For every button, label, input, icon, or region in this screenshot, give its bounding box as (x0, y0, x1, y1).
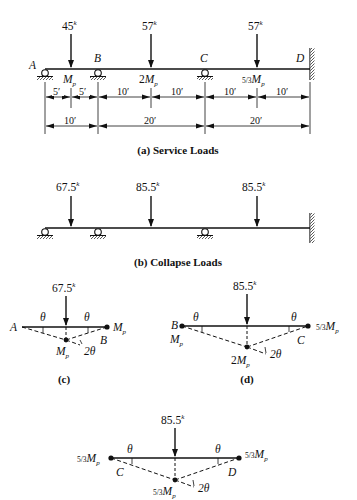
caption-c: (c) (58, 373, 71, 386)
plastic-hinge-icon (236, 455, 241, 460)
load-arrow: 45k (62, 19, 78, 67)
panel-a-service-loads: 45k 57k 57k A B C D (28, 19, 315, 157)
svg-text:67.5k: 67.5k (52, 281, 76, 294)
caption-a: (a) Service Loads (137, 144, 219, 157)
svg-text:85.5k: 85.5k (233, 279, 257, 292)
dimension-label: 20′ (144, 115, 156, 126)
load-arrow: 57k (142, 19, 158, 67)
svg-text:57k: 57k (248, 19, 264, 32)
joint-label-a: A (28, 59, 37, 71)
joint-label-d: D (227, 466, 237, 478)
panel-e-mechanism: 85.5k C D θ θ 5/3Mp 5/3Mp 5/3Mp 2θ (77, 413, 268, 500)
plastic-hinge-icon (104, 324, 109, 329)
load-arrow: 57k (248, 19, 264, 67)
fixed-support-icon (310, 48, 315, 80)
svg-text:57k: 57k (142, 19, 158, 32)
svg-text:85.5k: 85.5k (136, 180, 160, 193)
moment-label: 5/3Mp (77, 452, 100, 467)
panel-b-collapse-loads: 67.5k 85.5k 85.5k (b) Coll (37, 180, 315, 269)
load-arrow: 85.5k (136, 180, 160, 226)
svg-text:45k: 45k (62, 19, 78, 32)
panel-c-mechanism: 67.5k A B θ θ Mp Mp 2θ (c) (9, 281, 127, 386)
panel-d-mechanism: 85.5k B C θ θ Mp 2Mp 5/3Mp 2θ (d) (169, 279, 339, 386)
joint-label-c: C (297, 334, 305, 346)
two-theta-label: 2θ (198, 482, 210, 494)
dimension-label: 10′ (64, 115, 76, 126)
roller-support-icon (197, 70, 213, 80)
svg-text:85.5k: 85.5k (242, 180, 266, 193)
theta-label: θ (193, 311, 199, 323)
joint-label-c: C (200, 52, 208, 64)
plastic-hinge-icon (173, 478, 178, 483)
dimension-label: 20′ (250, 115, 262, 126)
plastic-hinge-icon (64, 338, 69, 343)
dimension-label: 5′ (53, 86, 60, 97)
dimension-label: 10′ (171, 86, 183, 97)
moment-label: Mp (169, 333, 184, 348)
moment-label: 5/3Mp (316, 320, 339, 335)
dimension-label: 10′ (276, 86, 288, 97)
theta-label: θ (291, 311, 297, 323)
caption-d: (d) (240, 373, 254, 386)
roller-support-icon (90, 229, 106, 239)
roller-support-icon (90, 70, 106, 80)
fixed-support-icon (310, 213, 315, 243)
plastic-hinge-icon (305, 323, 310, 328)
roller-support-icon (37, 70, 53, 80)
svg-text:85.5k: 85.5k (161, 413, 185, 426)
joint-label-c: C (116, 466, 124, 478)
two-theta-label: 2θ (84, 345, 96, 357)
joint-label-b: B (100, 334, 107, 346)
joint-label-b: B (171, 319, 178, 331)
joint-label-d: D (295, 52, 305, 64)
dimension-label: 5′ (79, 86, 86, 97)
theta-label: θ (127, 443, 133, 455)
roller-support-icon (197, 229, 213, 239)
svg-text:67.5k: 67.5k (56, 180, 80, 193)
dimension-label: 10′ (224, 86, 236, 97)
joint-label-b: B (94, 52, 101, 64)
moment-label: Mp (55, 345, 70, 360)
joint-label-a: A (9, 321, 18, 333)
moment-capacity-label: 2Mp (139, 73, 158, 88)
moment-capacity-label: Mp (62, 73, 77, 88)
two-theta-label: 2θ (270, 348, 282, 360)
dimension-label: 10′ (117, 86, 129, 97)
structural-beam-figure: 45k 57k 57k A B C D (0, 0, 357, 500)
moment-label: Mp (112, 321, 127, 336)
plastic-hinge-icon (108, 455, 113, 460)
theta-label: θ (215, 443, 221, 455)
caption-b: (b) Collapse Loads (134, 256, 223, 269)
load-value: 45 (62, 20, 74, 32)
roller-support-icon (37, 229, 53, 239)
moment-label: 2Mp (231, 354, 250, 369)
moment-label: 5/3Mp (245, 448, 268, 463)
plastic-hinge-icon (245, 345, 250, 350)
load-arrow: 85.5k (242, 180, 266, 226)
moment-label: 5/3Mp (153, 485, 176, 500)
moment-capacity-label: 5/3Mp (242, 73, 265, 88)
plastic-hinge-icon (179, 323, 184, 328)
load-arrow: 67.5k (56, 180, 80, 226)
theta-label: θ (40, 311, 46, 323)
theta-label: θ (84, 311, 90, 323)
